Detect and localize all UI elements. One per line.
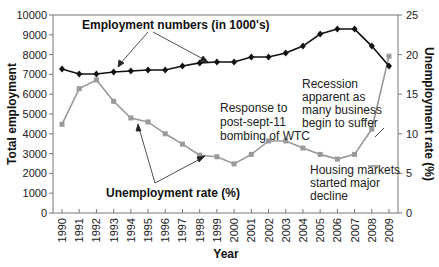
x-tick-label: 2005 bbox=[314, 218, 326, 242]
y-tick-label: 7000 bbox=[23, 68, 47, 80]
x-tick-label: 2002 bbox=[263, 218, 275, 242]
x-tick-label: 2004 bbox=[297, 218, 309, 242]
x-tick-label: 1999 bbox=[211, 218, 223, 242]
x-tick-label: 2008 bbox=[366, 218, 378, 242]
x-tick-label: 1990 bbox=[56, 218, 68, 242]
y-tick-label: 3000 bbox=[23, 148, 47, 160]
x-tick-label: 1993 bbox=[108, 218, 120, 242]
annotation-recession: Recession apparent as many business begi… bbox=[302, 77, 385, 130]
x-axis-ticks: 1990199119921993199419951996199719981999… bbox=[56, 209, 395, 242]
annotation-wtc: Response to post-sept-11 bombing of WTC bbox=[220, 101, 310, 143]
x-tick-label: 1997 bbox=[176, 218, 188, 242]
x-tick-label: 1994 bbox=[125, 218, 137, 242]
x-tick-label: 1996 bbox=[159, 218, 171, 242]
x-tick-label: 1991 bbox=[73, 218, 85, 242]
y-tick-label: 2000 bbox=[23, 167, 47, 179]
employment-line bbox=[62, 29, 389, 74]
employment-markers bbox=[59, 26, 392, 78]
y-right-tick-label: 25 bbox=[406, 9, 418, 21]
x-tick-label: 2000 bbox=[228, 218, 240, 242]
x-axis-title: Year bbox=[213, 247, 239, 261]
y-tick-label: 8000 bbox=[23, 49, 47, 61]
x-tick-label: 2003 bbox=[280, 218, 292, 242]
left-axis-ticks: 0100020003000400050006000700080009000100… bbox=[16, 9, 53, 219]
y-tick-label: 10000 bbox=[16, 9, 47, 21]
y-tick-label: 4000 bbox=[23, 128, 47, 140]
annotation-employment: Employment numbers (in 1000's) bbox=[82, 18, 270, 32]
x-tick-label: 1998 bbox=[194, 218, 206, 242]
y-axis-title-left: Total employment bbox=[5, 63, 19, 165]
y-axis-title-right: Unemployment rate (%) bbox=[422, 47, 436, 181]
y-tick-label: 5000 bbox=[23, 108, 47, 120]
annotation-housing: Housing markets started major decline bbox=[310, 163, 403, 203]
y-tick-label: 0 bbox=[41, 207, 47, 219]
x-tick-label: 2006 bbox=[331, 218, 343, 242]
y-right-tick-label: 10 bbox=[406, 128, 418, 140]
y-tick-label: 1000 bbox=[23, 187, 47, 199]
x-tick-label: 2001 bbox=[245, 218, 257, 242]
y-tick-label: 6000 bbox=[23, 88, 47, 100]
x-tick-label: 2007 bbox=[349, 218, 361, 242]
y-tick-label: 9000 bbox=[23, 29, 47, 41]
y-right-tick-label: 0 bbox=[406, 207, 412, 219]
annotation-unemployment: Unemployment rate (%) bbox=[106, 186, 240, 200]
x-tick-label: 1995 bbox=[142, 218, 154, 242]
x-tick-label: 1992 bbox=[90, 218, 102, 242]
x-tick-label: 2009 bbox=[383, 218, 395, 242]
right-axis-ticks: 0510152025 bbox=[398, 9, 418, 219]
dual-axis-line-chart: 0100020003000400050006000700080009000100… bbox=[0, 0, 439, 267]
y-right-tick-label: 5 bbox=[406, 167, 412, 179]
y-right-tick-label: 20 bbox=[406, 49, 418, 61]
y-right-tick-label: 15 bbox=[406, 88, 418, 100]
